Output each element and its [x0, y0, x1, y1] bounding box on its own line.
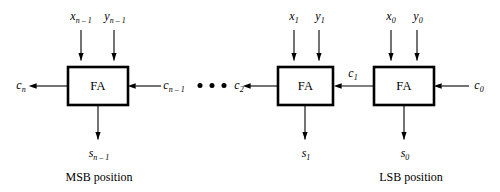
carry-label-c-1-sub: 1: [354, 73, 358, 82]
carry-label-c-2-sub: 2: [240, 85, 244, 94]
input-label-y-lsb: y0: [413, 10, 422, 22]
input-label-y-msb: yn – 1: [104, 10, 125, 22]
carry-label-c-0: c0: [474, 79, 483, 91]
carry-label-c-n-minus-1: cn – 1: [163, 79, 184, 91]
ripple-carry-adder-diagram: FA FA FA xn – 1 yn – 1 x1 y1 x0 y0 cn cn…: [0, 0, 500, 192]
sum-label-s-0-base: s: [401, 146, 406, 160]
input-label-y-lsb-sub: 0: [419, 16, 423, 25]
carry-label-c-0-sub: 0: [480, 85, 484, 94]
sum-label-s-1-base: s: [302, 146, 307, 160]
carry-label-c-1: c1: [348, 67, 357, 79]
carry-label-c-2: c2: [234, 79, 243, 91]
sum-label-s-1-sub: 1: [306, 153, 310, 162]
input-label-x-lsb-sub: 0: [392, 16, 396, 25]
input-label-x-bit1: x1: [289, 10, 298, 22]
sum-label-s-n-minus-1: sn – 1: [89, 147, 110, 159]
carry-label-c-n-sub: n: [22, 85, 26, 94]
sum-label-s-n-minus-1-sub: n – 1: [93, 153, 109, 162]
sum-label-s-1: s1: [302, 147, 311, 159]
fa-label-lsb: FA: [396, 80, 412, 93]
caption-msb-position: MSB position: [65, 171, 132, 183]
fa-label-bit1: FA: [298, 80, 314, 93]
sum-label-s-0: s0: [401, 147, 410, 159]
carry-label-c-n-minus-1-sub: n – 1: [169, 85, 185, 94]
input-label-y-bit1-sub: 1: [321, 16, 325, 25]
input-label-y-msb-sub: n – 1: [110, 16, 126, 25]
fa-block-lsb: [374, 30, 469, 140]
fa-label-msb: FA: [90, 80, 106, 93]
carry-label-c-n: cn: [16, 79, 25, 91]
sum-label-s-0-sub: 0: [405, 153, 409, 162]
ellipsis-dots: [198, 83, 227, 88]
input-label-x-msb-sub: n – 1: [76, 16, 92, 25]
diagram-canvas: [0, 0, 500, 192]
input-label-x-bit1-sub: 1: [295, 16, 299, 25]
sum-label-s-n-minus-1-base: s: [89, 146, 94, 160]
caption-lsb-position: LSB position: [379, 171, 443, 183]
input-label-y-bit1: y1: [315, 10, 324, 22]
input-label-x-msb: xn – 1: [70, 10, 91, 22]
input-label-x-lsb: x0: [386, 10, 395, 22]
